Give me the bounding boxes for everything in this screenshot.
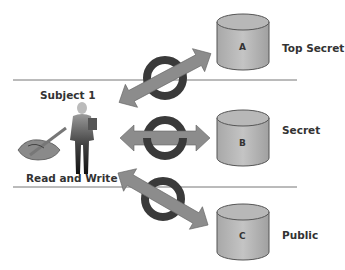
classification-label-secret: Secret [282, 124, 320, 136]
classification-label-top-secret: Top Secret [282, 42, 344, 54]
classification-label-public: Public [282, 229, 318, 241]
object-label-a: A [239, 42, 246, 52]
allowed-access-icon-secret [120, 120, 210, 156]
blocked-access-icon-public [111, 162, 214, 237]
writing-hand-icon [18, 128, 66, 160]
subject-label: Subject 1 [40, 89, 95, 101]
permissions-label: Read and Write [26, 172, 118, 184]
blocked-access-icon-top-secret [113, 42, 217, 114]
subject-person-icon [70, 102, 97, 174]
object-label-b: B [239, 138, 246, 148]
object-label-c: C [239, 231, 246, 241]
